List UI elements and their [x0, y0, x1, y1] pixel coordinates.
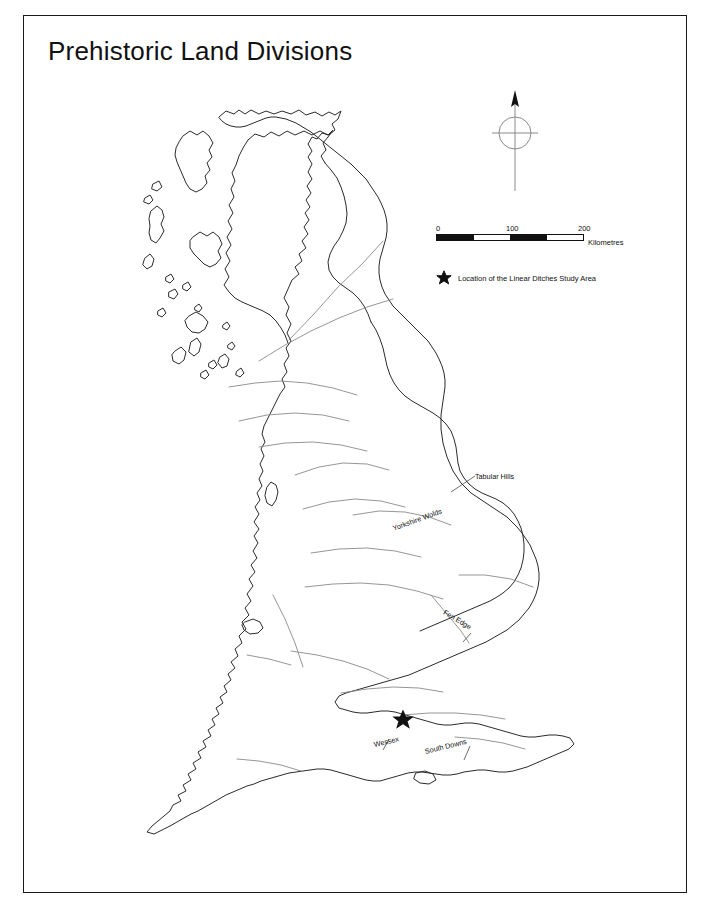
division-pennines-north	[295, 463, 389, 475]
scale-tick-100: 100	[506, 224, 519, 233]
scotland-east-coast	[325, 163, 371, 322]
division-midlands-north	[311, 548, 421, 557]
isle-of-islay	[172, 347, 186, 364]
scale-unit-label: Kilometres	[588, 238, 623, 247]
map-label-tabular-hills: Tabular Hills	[475, 472, 514, 481]
star-icon	[436, 270, 452, 286]
division-highland-line	[259, 299, 393, 361]
division-pennines-mid	[303, 499, 405, 509]
study-area-star-marker[interactable]	[394, 711, 412, 727]
small-isle-1	[169, 289, 178, 299]
scale-bar-track	[436, 234, 584, 241]
small-isle-4	[158, 308, 166, 317]
small-isle-10	[228, 342, 235, 350]
isle-of-mull	[185, 312, 208, 333]
scale-segment-4	[547, 235, 584, 240]
small-isle-3	[183, 282, 191, 291]
division-welsh-marches	[273, 595, 303, 667]
north-arrow-icon	[476, 88, 554, 196]
division-midlands-south	[305, 583, 443, 599]
scale-tick-0: 0	[436, 224, 440, 233]
leader-south-downs	[464, 746, 470, 760]
legend-label: Location of the Linear Ditches Study Are…	[458, 274, 596, 283]
scale-tick-200: 200	[578, 224, 591, 233]
division-wales-mid	[247, 655, 291, 665]
small-isle-9	[201, 370, 209, 379]
division-severn	[291, 651, 389, 679]
isle-of-wight	[414, 771, 436, 784]
isle-of-jura	[189, 338, 201, 356]
division-great-glen	[289, 241, 383, 340]
isle-of-arran	[218, 354, 229, 368]
scale-segment-3	[510, 235, 547, 240]
small-isle-5	[195, 304, 202, 312]
division-thames	[403, 713, 505, 719]
small-isle-12	[236, 368, 244, 377]
scale-segment-2	[474, 235, 511, 240]
division-east-anglia	[459, 575, 533, 587]
land-division-lines	[229, 241, 533, 771]
small-isle-11	[223, 322, 230, 330]
map-drawing	[23, 15, 687, 893]
outer-hebrides-lewis	[175, 131, 213, 192]
scale-bar: 0 100 200 Kilometres	[436, 224, 656, 254]
division-border	[259, 442, 367, 451]
legend: Location of the Linear Ditches Study Are…	[436, 270, 596, 286]
small-isle-7	[144, 195, 153, 204]
isle-of-man	[265, 482, 278, 506]
isle-of-skye	[190, 232, 222, 267]
leader-tabular-hills	[451, 476, 475, 492]
division-central-belt	[229, 381, 357, 395]
small-isle-2	[166, 274, 174, 283]
small-isle-6	[152, 181, 162, 191]
outer-hebrides-barra	[143, 254, 154, 269]
isle-of-anglesey	[242, 619, 263, 634]
small-isle-8	[209, 360, 217, 369]
outer-hebrides-uist	[149, 206, 164, 243]
scale-segment-1	[437, 235, 474, 240]
division-southern-uplands	[239, 413, 349, 421]
division-cornwall	[237, 759, 301, 771]
scotland-west-coast	[224, 140, 288, 343]
